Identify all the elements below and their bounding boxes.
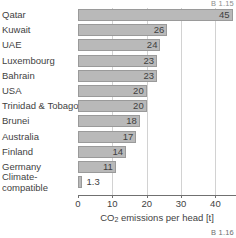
- bar-row: Trinidad & Tobago20: [0, 100, 236, 112]
- figure-number-bottom: B 1.16: [211, 228, 234, 237]
- bar-value-label: 20: [78, 100, 144, 112]
- bar-track: 14: [78, 146, 236, 158]
- tick-label-20: 20: [141, 198, 152, 210]
- category-label: Kuwait: [2, 24, 76, 35]
- category-label: Finland: [2, 146, 76, 157]
- bar-row: Climate-​compatible1.3: [0, 176, 236, 188]
- bar-row: Australia17: [0, 131, 236, 143]
- bar[interactable]: [78, 176, 82, 188]
- bar-track: 20: [78, 85, 236, 97]
- bar-row: Luxembourg23: [0, 55, 236, 67]
- bar-value-label: 17: [78, 131, 133, 143]
- category-label: Trinidad & Tobago: [2, 100, 76, 111]
- category-label: Qatar: [2, 9, 76, 20]
- bar-row: USA20: [0, 85, 236, 97]
- bar-value-label: 23: [78, 70, 154, 82]
- category-label: Australia: [2, 131, 76, 142]
- bar-rows: Qatar45Kuwait26UAE24Luxembourg23Bahrain2…: [0, 8, 236, 196]
- x-axis-title: CO2 emissions per head [t]: [78, 212, 236, 223]
- plot-area: Qatar45Kuwait26UAE24Luxembourg23Bahrain2…: [0, 8, 236, 196]
- bar-row: Kuwait26: [0, 24, 236, 36]
- tick-label-40: 40: [210, 198, 221, 210]
- category-label: Climate-​compatible: [2, 172, 76, 193]
- bar-track: 45: [78, 9, 236, 21]
- x-axis-title-prefix: CO: [100, 212, 114, 223]
- bar-value-label: 26: [78, 24, 164, 36]
- category-label: Bahrain: [2, 70, 76, 81]
- bar-track: 26: [78, 24, 236, 36]
- bar-track: 17: [78, 131, 236, 143]
- category-label: USA: [2, 85, 76, 96]
- bar-track: 18: [78, 115, 236, 127]
- figure-number-top: B 1.15: [211, 0, 234, 8]
- bar-track: 24: [78, 39, 236, 51]
- bar-value-label: 45: [78, 9, 230, 21]
- tick-label-0: 0: [75, 198, 80, 210]
- bar-track: 1.3: [78, 176, 236, 188]
- bar-row: Qatar45: [0, 9, 236, 21]
- bar-value-label: 1.3: [86, 176, 99, 188]
- bar-row: Brunei18: [0, 115, 236, 127]
- bar-value-label: 11: [78, 161, 113, 173]
- bar-row: UAE24: [0, 39, 236, 51]
- bar-value-label: 18: [78, 115, 137, 127]
- bar-value-label: 20: [78, 85, 144, 97]
- bar-row: Bahrain23: [0, 70, 236, 82]
- category-label: Brunei: [2, 115, 76, 126]
- bar-value-label: 23: [78, 55, 154, 67]
- bar-track: 23: [78, 55, 236, 67]
- tick-label-10: 10: [107, 198, 118, 210]
- co2-emissions-bar-chart: B 1.15 Qatar45Kuwait26UAE24Luxembourg23B…: [0, 0, 236, 238]
- category-label: UAE: [2, 39, 76, 50]
- category-label: Luxembourg: [2, 55, 76, 66]
- bar-value-label: 14: [78, 146, 123, 158]
- bar-track: 11: [78, 161, 236, 173]
- bar-track: 20: [78, 100, 236, 112]
- bar-track: 23: [78, 70, 236, 82]
- x-axis-title-suffix: emissions per head [t]: [118, 212, 214, 223]
- x-axis-tick-labels: 010203040: [0, 198, 236, 210]
- bar-value-label: 24: [78, 39, 157, 51]
- bar-row: Finland14: [0, 146, 236, 158]
- tick-label-30: 30: [176, 198, 187, 210]
